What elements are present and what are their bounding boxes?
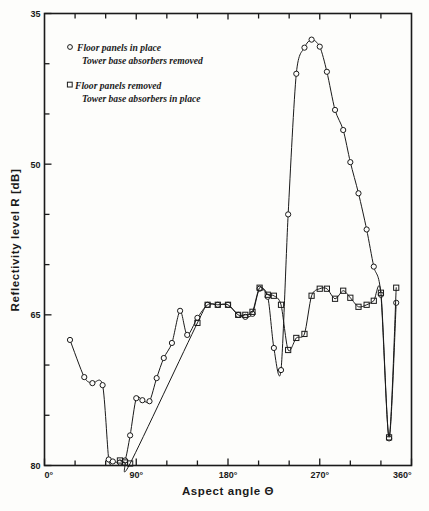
data-point-circle [371,264,376,269]
data-point-circle [128,433,133,438]
data-point-circle [309,37,314,42]
data-point-circle [82,375,87,380]
data-point-circle [348,160,353,165]
data-point-circle [154,376,159,381]
data-point-circle [177,308,182,313]
x-tick-label: 360° [393,470,412,480]
legend-series2-line1: Floor panels removed [74,80,162,91]
data-point-circle [90,381,95,386]
data-point-circle [278,367,283,372]
data-point-circle [100,383,105,388]
legend-circle-marker-icon [68,45,73,50]
data-point-circle [324,69,329,74]
y-tick-label: 50 [30,160,40,170]
x-tick-label: 0° [45,470,54,480]
data-point-circle [356,191,361,196]
legend-series2-line2: Tower base absorbers in place [82,93,201,104]
data-point-circle [341,127,346,132]
data-point-circle [185,332,190,337]
reflectivity-chart: 0°90°180°270°360° 35506580 Floor panels … [0,0,429,511]
data-point-circle [161,355,166,360]
x-axis-title: Aspect angle Θ [182,485,274,497]
legend-series1-line1: Floor panels in place [76,42,162,53]
figure-container: 0°90°180°270°360° 35506580 Floor panels … [0,0,429,511]
legend-series1-line2: Tower base absorbers removed [82,55,203,66]
data-point-circle [302,45,307,50]
x-tick-label: 90° [129,470,143,480]
data-point-circle [169,340,174,345]
data-point-circle [394,300,399,305]
data-point-circle [140,398,145,403]
data-point-circle [110,459,115,464]
data-point-circle [317,44,322,49]
data-point-circle [271,345,276,350]
y-tick-label: 80 [30,461,40,471]
y-tick-label: 35 [30,9,40,19]
x-tick-label: 180° [219,470,238,480]
data-point-circle [134,396,139,401]
y-axis-title: Reflectivity level R [dB] [9,169,21,312]
chart-background [0,0,429,511]
data-point-circle [364,227,369,232]
x-tick-label: 270° [310,470,329,480]
data-point-circle [67,337,72,342]
data-point-circle [147,399,152,404]
data-point-circle [294,71,299,76]
y-tick-label: 65 [30,310,40,320]
data-point-circle [332,107,337,112]
data-point-circle [286,212,291,217]
